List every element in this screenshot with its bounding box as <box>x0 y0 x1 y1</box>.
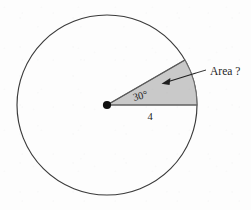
center-point-dot <box>103 101 111 109</box>
radius-label: 4 <box>147 111 153 122</box>
area-callout-label: Area ? <box>210 65 240 77</box>
shaded-sector <box>107 60 197 105</box>
figure-container: 30° 4 Area ? <box>0 0 251 210</box>
geometry-figure: 30° 4 Area ? <box>0 0 251 210</box>
callout-leader-line <box>196 70 206 73</box>
